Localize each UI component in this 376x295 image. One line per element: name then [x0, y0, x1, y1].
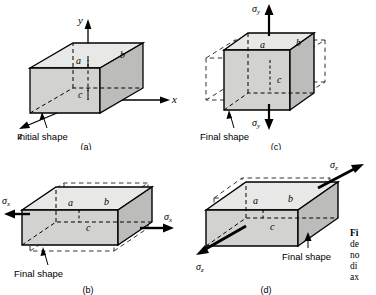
dimension-label-a: a [253, 195, 258, 206]
stress-label-sigma-x-right: σx [164, 211, 173, 224]
dimension-label-c: c [270, 221, 275, 232]
dimension-label-a: a [260, 39, 265, 50]
dimension-label-b: b [104, 196, 109, 207]
panel-letter-d: (d) [261, 285, 272, 295]
panel-c-sigma-y: a b c σy σy Final shape (c) [190, 0, 376, 150]
block-solid [22, 187, 152, 245]
caption-line-4: di [350, 261, 376, 272]
dimension-label-c: c [78, 89, 83, 100]
caption-line-2: de [350, 239, 376, 250]
panel-d-drawing: a b c σz σz Final shape (d) [190, 148, 376, 295]
stress-label-sigma-y-bottom: σy [252, 117, 261, 130]
final-shape-label: Final shape [14, 268, 63, 279]
stress-arrow-far [318, 164, 364, 188]
panel-d-sigma-z: a b c σz σz Final shape (d) [190, 148, 376, 295]
stress-deformation-figure: y x z a b c Initial shape (a) [0, 0, 376, 295]
block-solid [30, 43, 143, 113]
panel-a-initial-shape: y x z a b c Initial shape (a) [0, 0, 190, 150]
caption-line-3: no [350, 250, 376, 261]
stress-label-sigma-z-far: σz [330, 159, 338, 172]
caption-line-1: Fi [350, 228, 376, 239]
final-shape-label: Final shape [282, 251, 331, 262]
panel-b-sigma-x: a b c σx σx Final shape (b) [0, 148, 190, 295]
initial-shape-label: Initial shape [17, 131, 68, 142]
figure-caption-truncated: Fi de no di ax [350, 228, 376, 283]
panel-b-drawing: a b c σx σx Final shape (b) [0, 148, 190, 295]
dimension-label-b: b [288, 193, 293, 204]
dimension-label-a: a [76, 55, 81, 66]
final-shape-leader [227, 110, 235, 128]
caption-line-5: ax [350, 272, 376, 283]
dimension-label-c: c [277, 74, 282, 85]
dimension-label-b: b [296, 37, 301, 48]
stress-arrow-top [265, 4, 274, 36]
panel-a-drawing: y x z a b c Initial shape (a) [0, 0, 190, 150]
axis-label-y: y [77, 14, 83, 26]
stress-label-sigma-y-top: σy [252, 3, 261, 16]
panel-letter-b: (b) [83, 285, 94, 295]
stress-label-sigma-x-left: σx [2, 195, 11, 208]
panel-c-drawing: a b c σy σy Final shape (c) [190, 0, 376, 150]
stress-label-sigma-z-near: σz [196, 261, 204, 274]
dimension-label-a: a [68, 197, 73, 208]
dimension-label-b: b [120, 49, 125, 60]
final-shape-label: Final shape [200, 131, 249, 142]
final-shape-leader [41, 247, 49, 265]
axis-label-x: x [171, 93, 177, 105]
dimension-label-c: c [86, 222, 91, 233]
